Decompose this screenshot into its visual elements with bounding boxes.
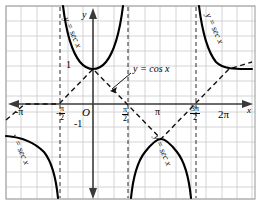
x-tick-three-pi-over-2: 3π 2: [190, 105, 200, 123]
x-tick-neg-pi-over-2-denominator: 2: [59, 114, 65, 122]
y-axis-label: y: [82, 10, 86, 20]
origin-label: O: [82, 107, 90, 118]
x-tick-pi: π: [155, 107, 160, 117]
y-tick-one: 1: [66, 60, 71, 70]
y-axis-arrow-bottom: [89, 188, 97, 199]
x-tick-three-pi-over-2-fraction: 3π 2: [190, 105, 200, 123]
y-tick-neg-one: -1: [74, 119, 82, 129]
x-tick-neg-pi-over-2: - π 2: [56, 105, 65, 123]
curve-label-cos: y = cos x: [133, 64, 169, 74]
sec-cos-graph-figure: y x O -π - π 2 π 2 π 3π 2 2π 1 -1 y = se…: [0, 0, 261, 207]
x-tick-pi-over-2-fraction: π 2: [122, 106, 128, 124]
x-tick-two-pi: 2π: [218, 109, 229, 120]
x-tick-pi-over-2: π 2: [122, 106, 128, 124]
coordinate-axes: [14, 14, 247, 193]
y-axis-arrow-top: [89, 8, 97, 19]
x-tick-neg-pi-over-2-fraction: π 2: [59, 105, 65, 123]
x-axis-label: x: [247, 106, 251, 115]
x-tick-three-pi-over-2-denominator: 2: [190, 114, 200, 122]
cos-callout-leader: [110, 73, 131, 93]
x-tick-pi-over-2-denominator: 2: [122, 115, 128, 123]
x-tick-neg-pi: -π: [15, 107, 23, 117]
